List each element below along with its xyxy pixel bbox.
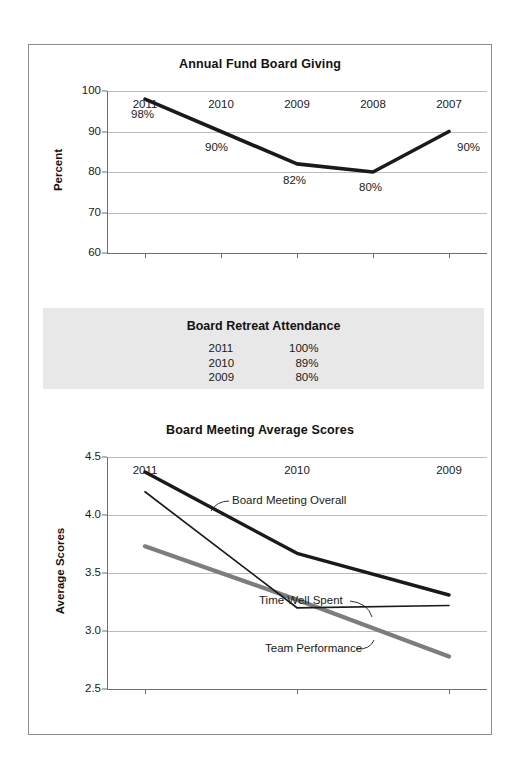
chart2-ytick-3-0: 3.0 (85, 625, 101, 637)
chart1-ytick-70: 70 (88, 207, 101, 219)
chart2-ytick-2-5: 2.5 (85, 683, 101, 695)
retreat-value: 100% (267, 341, 319, 356)
series-time-well-spent (145, 492, 449, 608)
chart2-ytick-4-5: 4.5 (85, 451, 101, 463)
chart1-ytick-100: 100 (82, 85, 101, 97)
chart-board-meeting-average-scores: Board Meeting Average Scores 4.5 4.0 3.5… (29, 419, 491, 735)
chart2-title: Board Meeting Average Scores (29, 423, 491, 437)
retreat-year: 2009 (209, 370, 267, 385)
series-board-meeting-overall (145, 472, 449, 595)
chart1-xtickmark-2009 (297, 253, 298, 258)
chart2-xtickmark-2009 (449, 689, 450, 694)
chart1-xtickmark-2007 (449, 253, 450, 258)
chart1-point-label-2010: 90% (205, 142, 228, 154)
table-row: 2009 80% (43, 370, 484, 385)
annotation-team-performance: Team Performance (265, 643, 362, 655)
table-row: 2011 100% (43, 341, 484, 356)
annotation-board-meeting-overall: Board Meeting Overall (232, 495, 346, 507)
chart1-point-label-2007: 90% (457, 142, 480, 154)
retreat-table-body: 2011 100% 2010 89% 2009 80% (43, 341, 484, 385)
chart1-xtickmark-2008 (373, 253, 374, 258)
figure-panel: Annual Fund Board Giving 100 90 80 70 (28, 44, 492, 735)
chart1-point-label-2008: 80% (359, 182, 382, 194)
chart2-ytick-4-0: 4.0 (85, 509, 101, 521)
chart2-ytick-3-5: 3.5 (85, 567, 101, 579)
leader-time-well-spent (350, 601, 372, 617)
chart2-xtickmark-2010 (297, 689, 298, 694)
chart2-yaxis-title: Average Scores (54, 526, 66, 616)
chart1-xtickmark-2010 (221, 253, 222, 258)
board-retreat-attendance-table: Board Retreat Attendance 2011 100% 2010 … (43, 308, 484, 389)
retreat-year: 2010 (209, 356, 267, 371)
annotation-time-well-spent: Time Well Spent (259, 595, 343, 607)
retreat-table-title: Board Retreat Attendance (43, 319, 484, 333)
chart2-plot-area: 4.5 4.0 3.5 3.0 2.5 2011 2010 2009 (107, 457, 487, 689)
chart1-series-line (107, 91, 487, 253)
chart1-ytick-80: 80 (88, 166, 101, 178)
chart1-ytick-60: 60 (88, 247, 101, 259)
chart1-plot-area: 100 90 80 70 60 2011 2010 2009 2008 (107, 91, 487, 253)
chart1-xtickmark-2011 (145, 253, 146, 258)
chart1-point-label-2009: 82% (283, 175, 306, 187)
chart1-point-label-2011: 98% (131, 109, 154, 121)
retreat-value: 80% (267, 370, 319, 385)
chart2-xtickmark-2011 (145, 689, 146, 694)
retreat-value: 89% (267, 356, 319, 371)
table-row: 2010 89% (43, 356, 484, 371)
page-canvas: Annual Fund Board Giving 100 90 80 70 (0, 0, 521, 775)
retreat-year: 2011 (209, 341, 267, 356)
chart1-title: Annual Fund Board Giving (29, 57, 491, 71)
chart1-ytick-90: 90 (88, 126, 101, 138)
chart1-yaxis-title: Percent (52, 140, 64, 200)
chart-annual-fund-board-giving: Annual Fund Board Giving 100 90 80 70 (29, 45, 491, 285)
